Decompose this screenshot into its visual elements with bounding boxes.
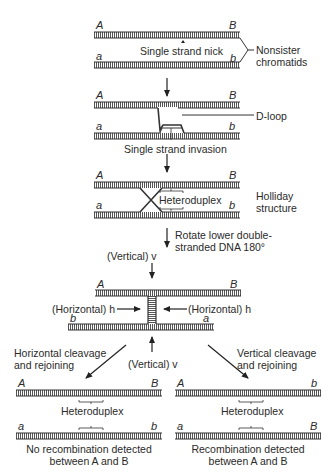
horizontal-cleavage-label: Horizontal cleavage and rejoining: [14, 347, 106, 371]
heteroduplex-bracket-top: [239, 400, 263, 404]
d-loop-label: D-loop: [256, 110, 287, 122]
horizontal-h-right-label: (Horizontal) h: [188, 303, 251, 315]
label-A: A: [97, 278, 104, 290]
label-A: A: [96, 169, 103, 181]
nonsister-chromatids-label: Nonsister chromatids: [256, 44, 307, 68]
result-right-bottom-duplex: [175, 433, 321, 439]
stage4-vertical-stem: [148, 296, 156, 324]
label-B: B: [229, 89, 236, 101]
result-left-bottom-duplex: [16, 433, 162, 439]
recombination-caption: Recombination detected between A and B: [173, 443, 323, 467]
stage3-top-duplex: [94, 182, 240, 188]
label-a: a: [177, 420, 183, 432]
heteroduplex-bracket-bottom: [239, 426, 263, 430]
single-strand-nick-label: Single strand nick: [140, 45, 223, 57]
label-A: A: [177, 377, 184, 389]
heteroduplex-bracket-bottom: [79, 426, 103, 430]
heteroduplex-bracket-bottom: [160, 207, 183, 211]
stage2-top-duplex: [94, 102, 240, 110]
diagram-canvas: [0, 0, 335, 472]
label-a: a: [18, 420, 24, 432]
label-A: A: [96, 89, 103, 101]
label-a: a: [203, 312, 209, 324]
label-B: B: [151, 377, 158, 389]
rotate-label: Rotate lower double- stranded DNA 180°: [175, 229, 272, 253]
label-b: b: [229, 120, 235, 132]
stage4-top-duplex: [95, 290, 241, 296]
heteroduplex-label: Heteroduplex: [61, 405, 123, 417]
stage1-bottom-duplex: [94, 62, 240, 68]
label-a: a: [96, 199, 102, 211]
label-a: a: [96, 120, 102, 132]
label-B: B: [230, 278, 237, 290]
stage2-bottom-duplex: [94, 133, 240, 139]
vertical-v-top-label: (Vertical) v: [107, 250, 157, 262]
vertical-v-bottom-label: (Vertical) v: [128, 358, 178, 370]
label-b: b: [151, 420, 157, 432]
vertical-cleavage-label: Vertical cleavage and rejoining: [237, 347, 316, 371]
result-left-top-duplex: [16, 390, 162, 396]
no-recombination-caption: No recombination detected between A and …: [14, 443, 164, 467]
label-b: b: [230, 52, 236, 64]
label-A: A: [18, 377, 25, 389]
chromatids-bracket: [240, 38, 254, 62]
single-strand-invasion-label: Single strand invasion: [124, 143, 227, 155]
horizontal-h-left-label: (Horizontal) h: [52, 303, 115, 315]
label-b: b: [229, 199, 235, 211]
stage3-bottom-duplex: [94, 212, 240, 218]
label-B: B: [229, 19, 236, 31]
holliday-structure-label: Holliday structure: [256, 190, 297, 214]
result-right-top-duplex: [175, 390, 321, 396]
heteroduplex-bracket-top: [160, 189, 183, 193]
heteroduplex-label: Heteroduplex: [221, 405, 283, 417]
label-a: a: [96, 50, 102, 62]
label-A: A: [96, 19, 103, 31]
stage1-top-duplex: [94, 32, 240, 38]
label-b: b: [70, 312, 76, 324]
label-B: B: [310, 420, 317, 432]
nick-marker-icon: [181, 40, 185, 43]
label-b: b: [311, 377, 317, 389]
heteroduplex-bracket-top: [79, 400, 103, 404]
stage4-bottom-duplex: [68, 324, 214, 330]
label-B: B: [229, 169, 236, 181]
heteroduplex-label: Heteroduplex: [159, 194, 221, 206]
